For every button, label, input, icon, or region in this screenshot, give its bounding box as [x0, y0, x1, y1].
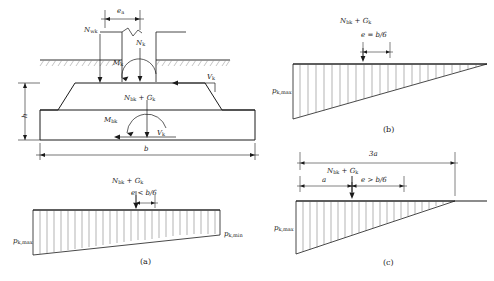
panel-a-ecc-label: e < b/6	[131, 190, 157, 197]
panel-c-pressure-outline	[296, 201, 455, 254]
panel-c-pressure-diagram	[296, 152, 487, 254]
width-dim-label: b	[144, 146, 148, 153]
column-shear-label: Vk	[207, 74, 215, 81]
panel-a-pmin-label: pk,min	[224, 231, 243, 238]
panel-b-pressure-diagram	[293, 42, 487, 119]
footing-outline	[40, 83, 255, 140]
foundation-cross-section	[18, 10, 259, 160]
panel-c-caption: (c)	[383, 259, 394, 267]
eccentricity-dim-label: ea	[117, 8, 124, 15]
ground-line	[40, 60, 230, 66]
panel-a-pressure-diagram	[33, 191, 220, 255]
column-load-arrow	[138, 48, 143, 82]
panel-b-pmax-label: pk,max	[272, 88, 292, 95]
panel-c-load-arrow	[349, 182, 354, 199]
panel-c-ordinates	[303, 201, 443, 252]
panel-a-ordinates	[40, 210, 215, 254]
panel-b-ecc-dimension	[360, 42, 393, 58]
upper-load-arrow	[98, 34, 103, 83]
panel-c-partial-dim-label: a	[322, 177, 326, 184]
panel-a-caption: (a)	[140, 258, 151, 266]
panel-a-pmax-label: pk,max	[13, 238, 33, 245]
panel-c-ecc-label: e > b/6	[361, 177, 387, 184]
panel-b-ordinates	[300, 64, 476, 117]
base-shear-label: Vk	[157, 130, 165, 137]
depth-dimension	[18, 83, 40, 140]
panel-c-pmax-label: pk,max	[274, 225, 294, 232]
base-load-label: Nbk + Gk	[124, 95, 155, 102]
panel-b-caption: (b)	[383, 126, 394, 134]
panel-c-load-label: Nbk + Gk	[327, 168, 358, 175]
column-shear-arrow-top	[172, 81, 215, 92]
base-moment-label: Mbk	[104, 117, 117, 124]
panel-c-total-dim-label: 3a	[369, 151, 378, 158]
upper-load-label: Nwk	[84, 27, 97, 34]
column-load-label: Nk	[136, 40, 145, 47]
base-load-arrow	[145, 100, 150, 138]
superstructure-outline	[100, 28, 186, 82]
engineering-figure	[0, 0, 494, 281]
panel-b-load-label: Nbk + Gk	[340, 18, 371, 25]
depth-dim-label: h	[22, 113, 29, 118]
panel-b-ecc-label: e = b/6	[361, 32, 387, 39]
panel-a-load-label: Nbk + Gk	[112, 178, 143, 185]
column-moment-label: Mk	[113, 60, 123, 67]
base-shear-arrow	[114, 135, 176, 140]
panel-b-pressure-outline	[293, 64, 487, 119]
panel-c-total-dimension	[297, 152, 458, 196]
